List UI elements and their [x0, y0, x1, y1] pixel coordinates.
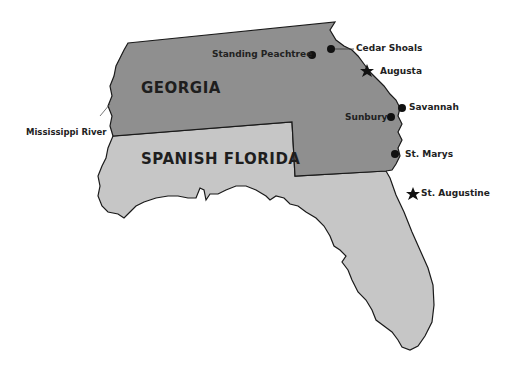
georgia-label: GEORGIA — [141, 79, 221, 97]
spanish-florida-label: SPANISH FLORIDA — [141, 150, 300, 168]
sunbury-label: Sunbury — [345, 112, 387, 122]
savannah-label: Savannah — [409, 102, 459, 112]
cedar-shoals-label: Cedar Shoals — [356, 43, 422, 53]
st-augustine-label: St. Augustine — [421, 188, 490, 198]
sunbury-marker — [387, 113, 395, 121]
historical-map: GEORGIA SPANISH FLORIDA Standing Peachtr… — [0, 0, 510, 373]
st-marys-marker — [391, 150, 399, 158]
cedar-shoals-marker — [327, 45, 335, 53]
augusta-label: Augusta — [380, 66, 422, 76]
mississippi-river-label: Mississippi River — [26, 127, 106, 137]
mississippi-river-leader — [100, 104, 110, 116]
st-augustine-star-icon — [406, 187, 420, 200]
st-marys-label: St. Marys — [405, 149, 453, 159]
savannah-marker — [398, 104, 406, 112]
standing-peachtree-label: Standing Peachtree — [212, 49, 312, 59]
